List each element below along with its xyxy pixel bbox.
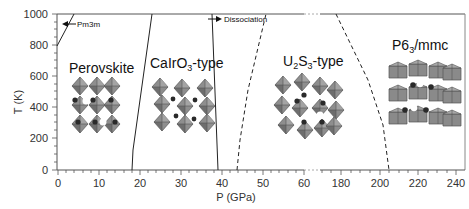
perovskite-structure-image bbox=[72, 77, 120, 133]
x-tick-180: 180 bbox=[332, 177, 350, 189]
y-tick-800: 800 bbox=[30, 39, 48, 51]
pm3m-boundary bbox=[57, 14, 74, 46]
x-tick-30: 30 bbox=[175, 177, 187, 189]
x-tick-0: 0 bbox=[55, 177, 61, 189]
x-tick-60: 60 bbox=[298, 177, 310, 189]
y-tick-600: 600 bbox=[30, 70, 48, 82]
x-tick-40: 40 bbox=[216, 177, 228, 189]
u2s3-structure-image bbox=[274, 73, 344, 139]
p63mmc-structure-image bbox=[389, 60, 461, 126]
x-tick-20: 20 bbox=[134, 177, 146, 189]
x-tick-240: 240 bbox=[447, 177, 465, 189]
u2s3-p63mmc-boundary bbox=[336, 14, 389, 170]
svg-text:Dissociation: Dissociation bbox=[224, 15, 267, 24]
phase-label-p63mmc: P63/mmc bbox=[392, 37, 448, 55]
x-tick-10: 10 bbox=[93, 177, 105, 189]
x-tick-200: 200 bbox=[371, 177, 389, 189]
svg-text:Pm3m: Pm3m bbox=[77, 20, 100, 29]
x-axis bbox=[58, 170, 456, 175]
cairo3-structure-image bbox=[152, 78, 215, 133]
y-axis bbox=[52, 14, 57, 170]
cairo3-dissociation-boundary bbox=[212, 14, 218, 170]
x-tick-50: 50 bbox=[257, 177, 269, 189]
phase-label-cairo3: CaIrO3-type bbox=[150, 55, 224, 73]
x-axis-title: P (GPa) bbox=[216, 191, 256, 203]
y-tick-labels: 1000 800 600 400 200 0 bbox=[24, 8, 48, 176]
y-axis-title: T (K) bbox=[12, 90, 24, 114]
x-tick-labels: 0 10 20 30 40 50 60 180 200 220 240 bbox=[55, 177, 465, 189]
y-tick-0: 0 bbox=[42, 164, 48, 176]
perovskite-cairo3-boundary bbox=[132, 14, 152, 170]
phase-diagram-chart: 1000 800 600 400 200 0 T (K) 0 10 20 30 bbox=[0, 0, 469, 209]
phase-label-perovskite: Perovskite bbox=[69, 60, 135, 76]
annotation-dissociation: Dissociation bbox=[208, 15, 267, 24]
annotation-pm3m: Pm3m bbox=[62, 20, 100, 29]
y-tick-1000: 1000 bbox=[24, 8, 48, 20]
y-tick-400: 400 bbox=[30, 101, 48, 113]
x-tick-220: 220 bbox=[409, 177, 427, 189]
dissociation-u2s3-boundary bbox=[237, 14, 266, 170]
y-tick-200: 200 bbox=[30, 132, 48, 144]
phase-label-u2s3: U2S3-type bbox=[283, 53, 344, 71]
